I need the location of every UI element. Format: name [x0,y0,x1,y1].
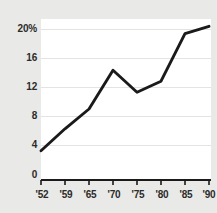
x-axis-labels: '52 '59 '65 '70 '75 '80 '85 '90 [0,0,217,213]
line-chart: 20% 16 12 8 4 0 '52 '59 '65 '70 '75 '80 … [0,0,217,213]
x-tick-label-90: '90 [194,190,217,200]
